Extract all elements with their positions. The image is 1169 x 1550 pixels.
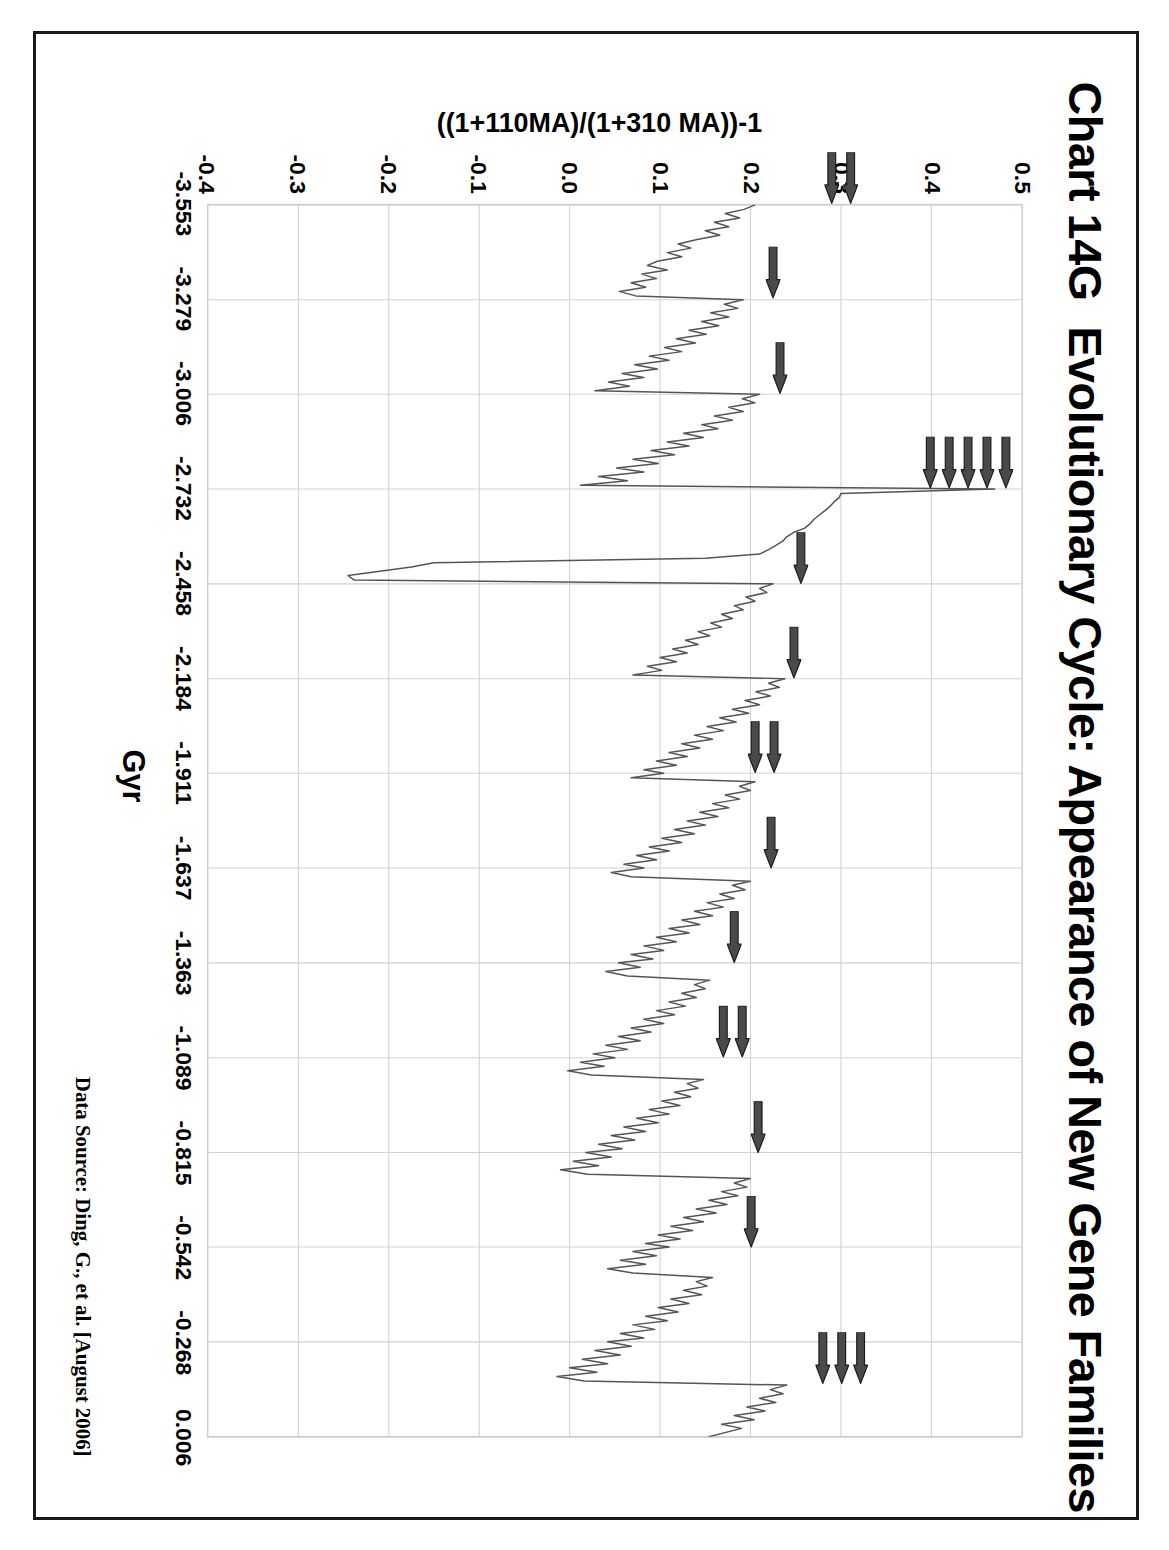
cycle-peak-arrow-icon xyxy=(843,152,858,204)
page-title: Chart 14GEvolutionary Cycle: Appearance … xyxy=(1058,81,1113,1512)
page-border: Chart 14GEvolutionary Cycle: Appearance … xyxy=(33,31,1139,1520)
chart-title-text: Evolutionary Cycle: Appearance of New Ge… xyxy=(1059,326,1112,1513)
cycle-peak-arrow-icon xyxy=(825,152,840,204)
cycle-peak-arrow-icon xyxy=(834,1331,849,1383)
cycle-peak-arrow-icon xyxy=(743,1195,758,1247)
x-axis-title: Gyr xyxy=(115,59,151,1492)
cycle-peak-arrow-icon xyxy=(766,721,781,773)
cycle-peak-arrow-icon xyxy=(923,436,938,488)
plot-area xyxy=(207,203,1023,1437)
cycle-peak-arrow-icon xyxy=(716,1006,731,1058)
cycle-peak-arrow-icon xyxy=(980,436,995,488)
cycle-peak-arrow-icon xyxy=(961,436,976,488)
cycle-peak-arrow-icon xyxy=(763,816,778,868)
y-tick-label: 0.4 xyxy=(919,108,946,194)
cycle-peak-arrow-icon xyxy=(942,436,957,488)
x-tick-label: -1.911 xyxy=(170,741,197,805)
cycle-peak-arrow-icon xyxy=(766,247,781,299)
cycle-peak-arrow-icon xyxy=(787,626,802,678)
plot-svg xyxy=(208,204,1022,1436)
x-tick-label: -0.542 xyxy=(170,1215,197,1280)
x-tick-label: -2.732 xyxy=(170,456,197,521)
x-tick-label: 0.006 xyxy=(170,1409,197,1466)
x-tick-label: -1.089 xyxy=(170,1025,197,1090)
cycle-peak-arrow-icon xyxy=(751,1101,766,1153)
rotated-chart-canvas: Chart 14GEvolutionary Cycle: Appearance … xyxy=(54,59,1119,1492)
vertical-gridlines xyxy=(208,204,1022,1436)
x-tick-label: -0.815 xyxy=(170,1120,197,1185)
cycle-peak-arrow-icon xyxy=(748,721,763,773)
cycle-peak-arrow-icon xyxy=(999,436,1014,488)
x-tick-label: -3.006 xyxy=(170,361,197,426)
x-tick-label: -2.184 xyxy=(170,646,197,711)
data-source-note: Data Source: Ding, G., et al. [August 20… xyxy=(70,1076,95,1456)
chart-number: Chart 14G xyxy=(1059,81,1112,300)
cycle-peak-arrow-icon xyxy=(727,911,742,963)
x-tick-label: -1.637 xyxy=(170,835,197,900)
x-tick-label: -2.458 xyxy=(170,551,197,616)
x-tick-label: -1.363 xyxy=(170,930,197,995)
cycle-peak-arrow-icon xyxy=(735,1006,750,1058)
cycle-peak-arrow-icon xyxy=(815,1331,830,1383)
cycle-peak-arrow-icon xyxy=(772,341,787,393)
x-tick-label: -3.279 xyxy=(170,266,197,331)
y-tick-label: -0.4 xyxy=(193,108,220,194)
cycle-peak-arrow-icon xyxy=(853,1331,868,1383)
cycle-peak-arrow-icon xyxy=(793,531,808,583)
y-axis-title: ((1+110MA)/(1+310 MA))-1 xyxy=(301,107,898,138)
data-series-line xyxy=(348,204,995,1436)
y-tick-label: 0.5 xyxy=(1009,108,1036,194)
chart-page: Chart 14GEvolutionary Cycle: Appearance … xyxy=(0,0,1169,1550)
x-tick-label: -0.268 xyxy=(170,1310,197,1375)
horizontal-gridlines xyxy=(208,204,1022,1436)
